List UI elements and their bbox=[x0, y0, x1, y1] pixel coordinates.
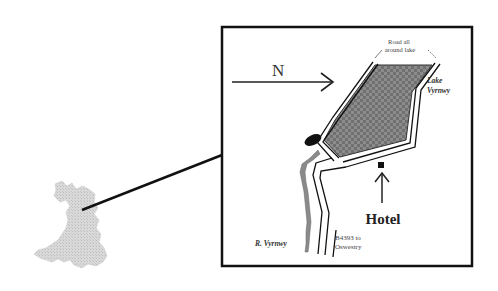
road-number-line2: Oswestry bbox=[335, 243, 362, 251]
lake-label-line2: Vyrnwy bbox=[427, 86, 451, 95]
north-label: N bbox=[272, 61, 284, 80]
lake-label-line1: Lake bbox=[426, 76, 443, 85]
road-number-line1: B4393 to bbox=[335, 234, 361, 242]
connector-line bbox=[82, 155, 222, 210]
hotel-label: Hotel bbox=[366, 211, 401, 227]
hotel-marker bbox=[378, 162, 384, 168]
map-illustration: N Road all around lake Lake Vyrnwy Hotel… bbox=[0, 0, 498, 291]
road-label-line2: around lake bbox=[385, 46, 416, 53]
road-label-line1: Road all bbox=[388, 38, 410, 45]
river-label: R. Vyrnwy bbox=[254, 239, 288, 248]
wales-inset bbox=[34, 181, 107, 268]
